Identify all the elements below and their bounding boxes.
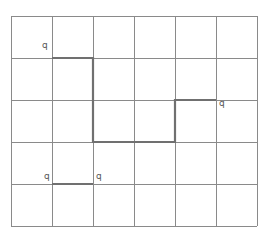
label-q-3: q: [44, 172, 50, 181]
label-q-1: q: [42, 41, 48, 50]
label-q-2: q: [219, 99, 225, 108]
grid-diagram: [0, 0, 270, 238]
grid-lines: [11, 16, 258, 227]
label-q-4: q: [96, 172, 102, 181]
